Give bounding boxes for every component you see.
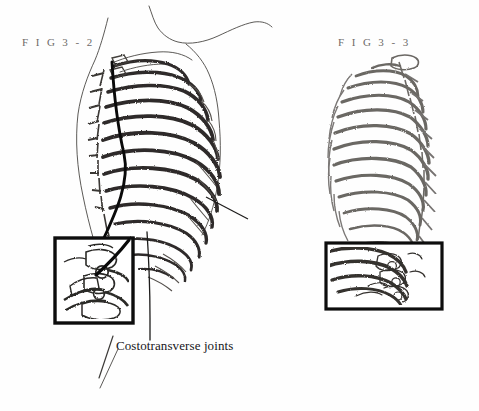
costotransverse-joints-caption: Costotransverse joints [116, 338, 233, 354]
inset-fig-3-3 [326, 243, 442, 309]
figure-plate-page: F I G 3 - 2 F I G 3 - 3 Costotransverse … [0, 0, 479, 411]
inset-fig-3-2 [55, 238, 133, 323]
caption-diagonal-stroke [99, 336, 113, 378]
